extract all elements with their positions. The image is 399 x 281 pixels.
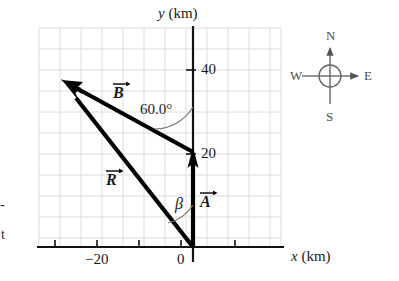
diagram-canvas — [0, 0, 399, 281]
vector-label-b-text: B — [113, 84, 124, 101]
angle-label-beta: β — [175, 196, 183, 212]
compass-rose — [302, 48, 358, 104]
angle-label-60: 60.0° — [140, 102, 172, 117]
grid-lines — [39, 28, 281, 247]
margin-text-line2: t — [1, 228, 5, 242]
vector-a — [188, 147, 199, 247]
vector-label-r-text: R — [106, 171, 117, 188]
vector-label-r: R — [106, 168, 117, 188]
compass-label-east: E — [364, 69, 372, 82]
compass-label-south: S — [326, 110, 333, 123]
vector-label-a-text: A — [200, 193, 211, 210]
vector-arrow-overbar-a — [200, 190, 211, 195]
vector-diagram-figure: y (km) x (km) 40 20 −20 0 B R A 60.0° β … — [0, 0, 399, 281]
x-tick-label-neg20: −20 — [85, 252, 108, 267]
margin-text-line1: - — [0, 198, 5, 212]
compass-label-west: W — [290, 69, 302, 82]
vector-arrow-overbar-b — [113, 81, 124, 86]
vector-label-a: A — [200, 190, 211, 210]
y-tick-label-40: 40 — [201, 62, 216, 77]
x-axis-title: x (km) — [291, 249, 331, 264]
compass-label-north: N — [326, 29, 335, 42]
vector-arrow-overbar-r — [106, 168, 117, 173]
y-tick-label-20: 20 — [201, 146, 216, 161]
y-axis-title: y (km) — [158, 6, 198, 21]
x-tick-label-0: 0 — [177, 252, 185, 267]
x-axis-title-var: x — [291, 248, 298, 264]
y-axis-title-unit: (km) — [165, 5, 198, 21]
y-axis-title-var: y — [158, 5, 165, 21]
vector-label-b: B — [113, 81, 124, 101]
x-axis-title-unit: (km) — [298, 248, 331, 264]
